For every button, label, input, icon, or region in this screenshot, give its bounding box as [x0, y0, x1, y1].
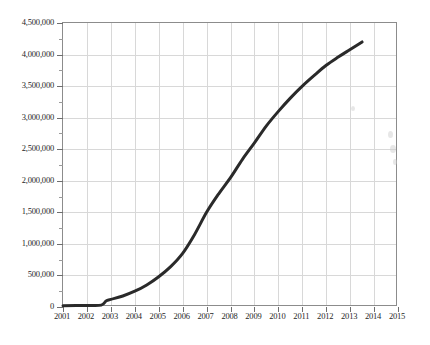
scan-artifact: [393, 159, 397, 165]
x-tick-label: 2011: [293, 311, 309, 321]
x-tick-label: 2006: [174, 311, 190, 321]
data-series-line: [63, 23, 398, 307]
x-axis-labels: 2001200220032004200520062007200820092010…: [62, 311, 397, 327]
scan-artifact: [388, 131, 393, 138]
plot-area: [62, 22, 397, 306]
x-tick-label: 2010: [269, 311, 285, 321]
x-tick-label: 2009: [245, 311, 261, 321]
x-tick-label: 2012: [317, 311, 333, 321]
y-tick-label: 1,000,000: [22, 238, 54, 248]
x-tick-label: 2004: [126, 311, 142, 321]
y-tick-label: 3,000,000: [22, 112, 54, 122]
chart-container: 0500,0001,000,0001,500,0002,000,0002,500…: [0, 0, 430, 345]
y-tick-label: 1,500,000: [22, 206, 54, 216]
y-tick-label: 500,000: [28, 269, 54, 279]
y-tick-label: 2,000,000: [22, 175, 54, 185]
x-tick-label: 2014: [365, 311, 381, 321]
x-tick-label: 2002: [78, 311, 94, 321]
x-tick-label: 2001: [54, 311, 70, 321]
scan-artifact: [390, 145, 396, 153]
series-1-path: [63, 42, 362, 306]
x-tick-label: 2013: [341, 311, 357, 321]
x-tick-label: 2015: [389, 311, 405, 321]
x-tick-label: 2005: [150, 311, 166, 321]
y-tick-label: 3,500,000: [22, 80, 54, 90]
scan-artifact: [351, 106, 355, 111]
x-tick-label: 2003: [102, 311, 118, 321]
y-tick-label: 0: [50, 301, 54, 311]
y-tick-label: 4,500,000: [22, 17, 54, 27]
y-tick-label: 4,000,000: [22, 49, 54, 59]
y-tick-label: 2,500,000: [22, 143, 54, 153]
x-tick-label: 2007: [197, 311, 213, 321]
y-axis-labels: 0500,0001,000,0001,500,0002,000,0002,500…: [0, 22, 54, 306]
x-tick-label: 2008: [221, 311, 237, 321]
